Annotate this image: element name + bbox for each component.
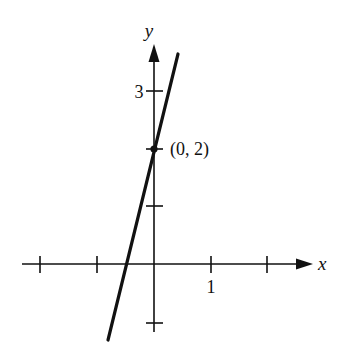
chart-canvas: y x 3 1 (0, 2) [0, 0, 337, 354]
x-axis-label: x [317, 253, 327, 274]
intercept-point [150, 145, 157, 152]
y-tick-label-3: 3 [135, 82, 144, 102]
point-label: (0, 2) [170, 139, 209, 160]
y-axis-arrow-icon [149, 44, 160, 62]
x-tick-label-1: 1 [207, 277, 216, 297]
y-axis-label: y [143, 20, 154, 41]
x-axis-arrow-icon [296, 259, 313, 270]
